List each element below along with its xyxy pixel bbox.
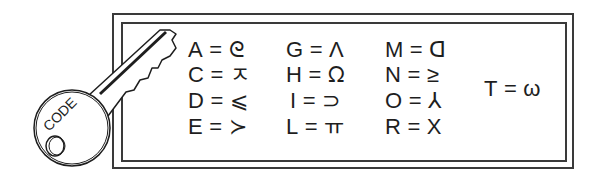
equals-sign: =	[504, 76, 517, 101]
cipher-symbol: ≥	[427, 64, 440, 86]
plain-letter: G	[286, 37, 304, 62]
cipher-symbol: ⊃	[322, 90, 341, 112]
equals-sign: =	[310, 37, 323, 62]
plain-letter: R	[385, 114, 401, 139]
cipher-symbol: ᗡ	[429, 39, 447, 61]
cipher-entry: I=⊃	[290, 90, 340, 112]
cipher-entry: A=ᘓ	[188, 39, 244, 61]
cipher-entry: E=≻	[188, 116, 247, 138]
equals-sign: =	[409, 88, 422, 113]
cipher-symbol: ㅈ	[230, 64, 251, 86]
cipher-symbol: ≻	[229, 116, 248, 138]
equals-sign: =	[210, 88, 223, 113]
plain-letter: E	[188, 114, 203, 139]
equals-sign: =	[209, 114, 222, 139]
cipher-symbol: ᘓ	[229, 39, 245, 61]
equals-sign: =	[407, 114, 420, 139]
plain-letter: I	[290, 88, 297, 113]
cipher-symbol: ᘯ	[328, 64, 346, 86]
equals-sign: =	[209, 37, 222, 62]
equals-sign: =	[305, 114, 318, 139]
plain-letter: C	[188, 62, 204, 87]
plain-letter: H	[286, 62, 302, 87]
equals-sign: =	[210, 62, 223, 87]
plain-letter: D	[188, 88, 204, 113]
cipher-entry: L=ㅠ	[286, 116, 345, 138]
cipher-symbol: X	[427, 116, 442, 138]
cipher-entry: M=ᗡ	[385, 39, 447, 61]
plain-letter: N	[385, 62, 401, 87]
plain-letter: M	[385, 37, 404, 62]
equals-sign: =	[308, 62, 321, 87]
cipher-entry: T=ω	[484, 78, 541, 100]
cipher-entry: O=⅄	[385, 90, 441, 112]
plain-letter: T	[484, 76, 498, 101]
cipher-symbol: ω	[523, 78, 541, 100]
cipher-symbol: ㅠ	[324, 116, 345, 138]
cipher-entry: D=⩽	[188, 90, 248, 112]
equals-sign: =	[407, 62, 420, 87]
cipher-entry: N=≥	[385, 64, 439, 86]
cipher-entry: R=X	[385, 116, 442, 138]
cipher-symbol: ⅄	[428, 90, 442, 112]
cipher-entry: H=ᘯ	[286, 64, 345, 86]
plain-letter: L	[286, 114, 299, 139]
cipher-symbol: Λ	[329, 39, 344, 61]
plain-letter: O	[385, 88, 403, 113]
equals-sign: =	[410, 37, 423, 62]
cipher-entry: G=Λ	[286, 39, 344, 61]
equals-sign: =	[303, 88, 316, 113]
plain-letter: A	[188, 37, 203, 62]
cipher-entry: C=ㅈ	[188, 64, 250, 86]
cipher-symbol: ⩽	[230, 90, 249, 112]
